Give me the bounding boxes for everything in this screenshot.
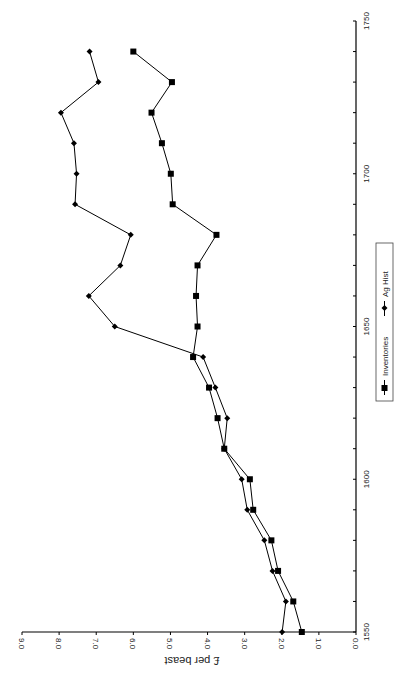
- legend-label: Ag Hist: [381, 270, 390, 297]
- square-marker: [206, 385, 212, 391]
- square-marker: [149, 110, 155, 116]
- series-layer: [58, 49, 305, 635]
- value-tick-label: 5.0: [165, 638, 174, 650]
- square-marker: [290, 598, 296, 604]
- series-inventories: [130, 49, 304, 635]
- value-tick-label: 4.0: [203, 638, 212, 650]
- year-tick-label: 1550: [362, 623, 371, 641]
- value-tick-label: 1.0: [314, 638, 323, 650]
- diamond-marker: [279, 629, 285, 635]
- value-tick-label: 3.0: [240, 638, 249, 650]
- diamond-marker: [200, 354, 206, 360]
- diamond-marker: [128, 232, 134, 238]
- value-tick-label: 2.0: [277, 638, 286, 650]
- series-line: [61, 52, 286, 632]
- diamond-marker: [261, 537, 267, 543]
- value-tick-label: 8.0: [54, 638, 63, 650]
- diamond-marker: [270, 568, 276, 574]
- value-tick-label: 6.0: [128, 638, 137, 650]
- square-marker: [195, 324, 201, 330]
- line-chart: 0.01.02.03.04.05.06.07.08.09.01550160016…: [0, 0, 401, 683]
- value-tick-label: 9.0: [17, 638, 26, 650]
- axes: 0.01.02.03.04.05.06.07.08.09.01550160016…: [17, 12, 371, 667]
- legend: InventoriesAg Hist: [376, 243, 393, 401]
- legend-label: Inventories: [381, 337, 390, 376]
- value-tick-label: 7.0: [91, 638, 100, 650]
- series-ag-hist: [58, 49, 289, 635]
- square-marker: [268, 537, 274, 543]
- square-marker: [168, 171, 174, 177]
- square-marker: [299, 629, 305, 635]
- legend-box: [376, 243, 393, 401]
- diamond-marker: [239, 476, 245, 482]
- diamond-marker: [72, 201, 78, 207]
- year-tick-label: 1600: [362, 470, 371, 488]
- diamond-marker: [87, 49, 93, 55]
- year-tick-label: 1650: [362, 317, 371, 335]
- square-marker: [215, 415, 221, 421]
- legend-square-icon: [382, 385, 388, 391]
- value-tick-label: 0.0: [351, 638, 360, 650]
- diamond-marker: [74, 171, 80, 177]
- value-axis-title: £ per beast: [164, 655, 219, 667]
- diamond-marker: [283, 598, 289, 604]
- year-tick-label: 1750: [362, 12, 371, 30]
- square-marker: [275, 568, 281, 574]
- square-marker: [195, 262, 201, 268]
- square-marker: [130, 49, 136, 55]
- square-marker: [247, 476, 253, 482]
- diamond-marker: [212, 385, 218, 391]
- square-marker: [250, 507, 256, 513]
- square-marker: [169, 79, 175, 85]
- square-marker: [193, 293, 199, 299]
- year-tick-label: 1700: [362, 164, 371, 182]
- diamond-marker: [71, 140, 77, 146]
- diamond-marker: [224, 415, 230, 421]
- square-marker: [190, 354, 196, 360]
- square-marker: [170, 201, 176, 207]
- square-marker: [159, 140, 165, 146]
- diamond-marker: [244, 507, 250, 513]
- square-marker: [213, 232, 219, 238]
